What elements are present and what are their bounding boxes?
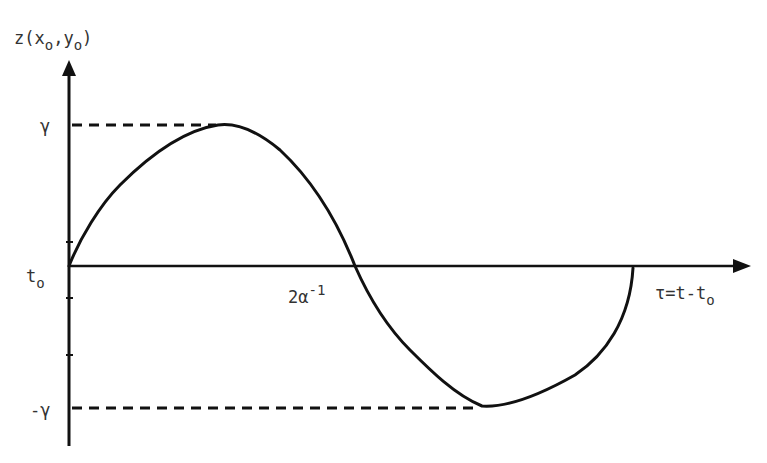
origin-label-sub: o (36, 275, 44, 291)
x-label-sub: o (706, 292, 714, 308)
x-label-main: τ=t-t (655, 283, 706, 303)
gamma-label: γ (40, 118, 50, 135)
crossing-label-main: 2α (288, 287, 308, 307)
origin-label-main: t (26, 266, 36, 286)
y-axis-arrowhead-icon (62, 60, 76, 76)
origin-label: to (26, 268, 45, 290)
y-label-end: ) (82, 28, 92, 48)
crossing-label: 2α-1 (288, 283, 325, 306)
y-label-mid: ,y (53, 28, 73, 48)
crossing-label-sup: -1 (308, 282, 325, 298)
diagram-canvas (0, 0, 767, 463)
y-label-sub1: o (45, 37, 53, 53)
x-axis-label: τ=t-to (655, 285, 715, 307)
y-label-sub2: o (74, 37, 82, 53)
neg-gamma-label: -γ (30, 402, 50, 419)
y-label-main: z(x (14, 28, 45, 48)
x-axis-arrowhead-icon (733, 259, 751, 273)
y-axis-label: z(xo,yo) (14, 30, 92, 52)
